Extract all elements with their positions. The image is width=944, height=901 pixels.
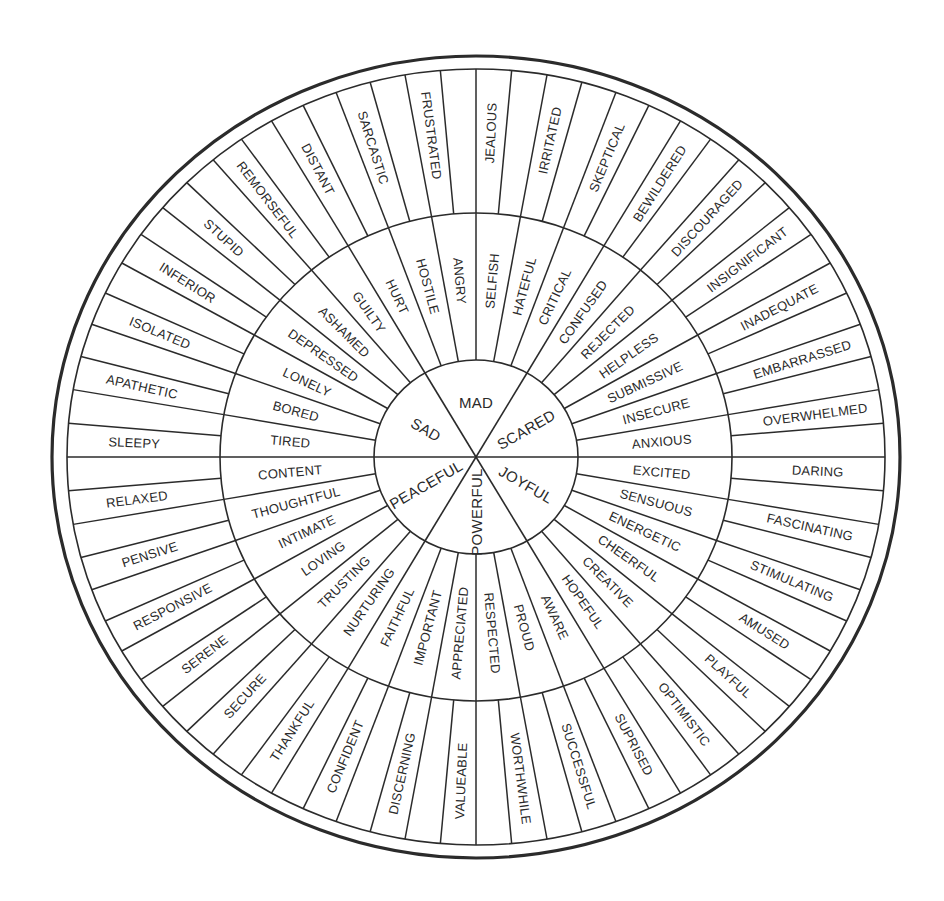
tertiary-emotion-daring: DARING (792, 463, 844, 480)
tertiary-emotion-serene: SERENE (178, 632, 231, 677)
core-emotion-joyful: JOYFUL (496, 462, 556, 506)
tertiary-emotion-sarcastic: SARCASTIC (355, 109, 392, 186)
secondary-emotion-bored: BORED (271, 398, 321, 425)
secondary-emotion-respected: RESPECTED (481, 592, 503, 674)
tertiary-emotion-remorseful: REMORSEFUL (234, 159, 302, 241)
core-emotions: MADSCAREDJOYFULPOWERFULPEACEFULSAD (386, 394, 558, 556)
secondary-emotion-appreciated: APPRECIATED (448, 586, 471, 680)
core-emotion-powerful: POWERFUL (468, 468, 485, 555)
feelings-wheel: MADSCAREDJOYFULPOWERFULPEACEFULSAD HURTH… (0, 0, 944, 901)
tertiary-emotion-valueable: VALUEABLE (452, 742, 470, 819)
tertiary-emotion-suprised: SUPRISED (612, 711, 657, 778)
secondary-emotion-faithful: FAITHFUL (377, 585, 417, 648)
secondary-emotion-selfish: SELFISH (482, 253, 502, 310)
secondary-emotion-loving: LOVING (298, 538, 348, 579)
tertiary-emotion-distant: DISTANT (298, 141, 337, 198)
secondary-emotion-sensuous: SENSUOUS (618, 486, 694, 520)
tertiary-emotion-inadequate: INADEQUATE (738, 281, 821, 334)
core-emotion-sad: SAD (408, 414, 444, 445)
tertiary-emotion-skeptical: SKEPTICAL (586, 121, 628, 194)
tertiary-emotion-discouraged: DISCOURAGED (668, 176, 746, 259)
tertiary-emotion-fascinating: FASCINATING (765, 510, 854, 544)
tertiary-emotion-sleepy: SLEEPY (108, 434, 161, 451)
tertiary-emotion-insignificant: INSIGNIFICANT (704, 224, 791, 296)
tertiary-emotion-successful: SUCCESSFUL (558, 721, 599, 811)
secondary-emotion-guilty: GUILTY (349, 289, 388, 336)
wheel-spokes (67, 69, 885, 845)
tertiary-emotion-overwhelmed: OVERWHELMED (762, 400, 868, 429)
core-emotion-peaceful: PEACEFUL (386, 457, 465, 513)
tertiary-emotion-secure: SECURE (221, 670, 270, 721)
secondary-emotion-hostile: HOSTILE (413, 257, 442, 316)
secondary-emotion-anxious: ANXIOUS (631, 432, 692, 452)
secondary-emotion-proud: PROUD (511, 603, 538, 653)
tertiary-emotion-jealous: JEALOUS (482, 102, 500, 163)
tertiary-emotion-discerning: DISCERNING (386, 731, 419, 816)
secondary-emotion-content: CONTENT (258, 462, 323, 483)
secondary-emotion-hateful: HATEFUL (509, 256, 539, 318)
tertiary-emotion-stupid: STUPID (201, 216, 247, 260)
secondary-emotion-excited: EXCITED (632, 462, 691, 482)
tertiary-emotion-isolated: ISOLATED (127, 314, 193, 353)
tertiary-emotion-relaxed: RELAXED (105, 488, 169, 511)
tertiary-emotion-pensive: PENSIVE (120, 539, 180, 571)
core-emotion-mad: MAD (459, 394, 493, 411)
secondary-emotion-lonely: LONELY (280, 365, 333, 400)
secondary-emotions: HURTHOSTILEANGRYSELFISHHATEFULCRITICALCO… (250, 253, 694, 680)
secondary-emotion-aware: AWARE (538, 592, 572, 642)
secondary-emotion-angry: ANGRY (450, 257, 469, 305)
tertiary-emotion-confident: CONFIDENT (323, 718, 367, 795)
secondary-emotion-tired: TIRED (270, 432, 311, 450)
